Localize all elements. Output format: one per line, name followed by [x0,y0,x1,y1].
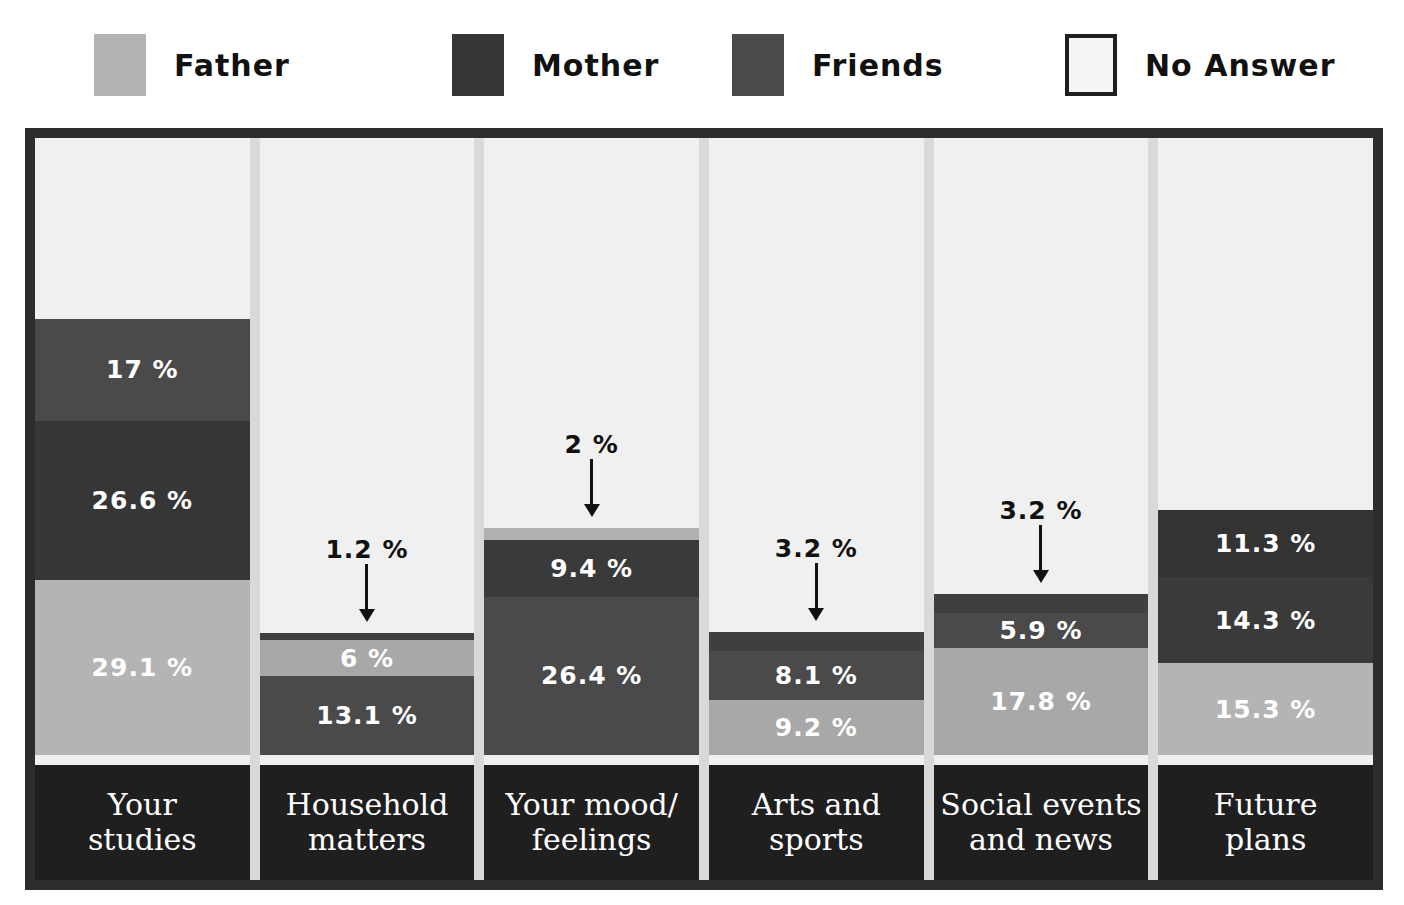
chart-legend: FatherMotherFriendsNo Answer [0,0,1404,128]
bar-segment-father[interactable]: 17.8 % [934,648,1149,755]
segment-value-label: 9.4 % [550,554,633,583]
segment-value-label: 11.3 % [1215,529,1316,558]
legend-swatch-father [94,34,146,96]
bar-segment-friends[interactable] [934,594,1149,613]
category-label-line: Household [286,788,449,823]
bar-segment-father[interactable]: 9.2 % [709,700,924,755]
column-gap [474,138,484,880]
category-label: Yourstudies [88,788,197,858]
bar-segment-father[interactable] [484,528,699,540]
column-gap [924,138,934,880]
category-label-line: sports [752,823,881,858]
segment-value-label: 17.8 % [990,687,1091,716]
bar-column[interactable]: 9.2 %8.1 %3.2 %Arts andsports [709,138,924,880]
callout-value-label: 3.2 % [775,534,858,563]
bar-segment-mother[interactable]: 26.6 % [35,421,250,581]
category-label-line: Social events [940,788,1141,823]
legend-swatch-friends [732,34,784,96]
callout-arrow-icon [584,459,600,517]
segment-value-label: 17 % [106,355,179,384]
segment-value-label: 9.2 % [775,713,858,742]
bar-segment-father[interactable]: 29.1 % [35,580,250,755]
segment-value-label: 29.1 % [92,653,193,682]
bar-segment-father[interactable]: 6 % [260,640,475,676]
segment-value-label: 15.3 % [1215,695,1316,724]
chart-frame: 29.1 %26.6 %17 %Yourstudies13.1 %6 %1.2 … [25,128,1383,890]
callout-arrow-icon [359,564,375,622]
bar-segment-father[interactable]: 15.3 % [1158,663,1373,755]
legend-item-father[interactable]: Father [94,34,290,96]
value-callout: 3.2 % [709,534,924,621]
bar-column[interactable]: 17.8 %5.9 %3.2 %Social eventsand news [934,138,1149,880]
category-label: Futureplans [1214,788,1318,858]
bar-segment-mother[interactable]: 8.1 % [709,651,924,700]
category-label-band: Futureplans [1158,765,1373,880]
value-callout: 3.2 % [934,496,1149,583]
legend-label: Friends [812,48,944,83]
legend-label: No Answer [1145,48,1335,83]
segment-value-label: 14.3 % [1215,606,1316,635]
category-label-line: Your [88,788,197,823]
callout-value-label: 1.2 % [325,535,408,564]
category-label: Your mood/feelings [505,788,677,858]
segment-value-label: 5.9 % [999,616,1082,645]
bar-segment-mother[interactable]: 14.3 % [1158,577,1373,663]
column-gap [699,138,709,880]
category-label-line: Future [1214,788,1318,823]
bar-column[interactable]: 15.3 %14.3 %11.3 %Futureplans [1158,138,1373,880]
category-label-line: Your mood/ [505,788,677,823]
category-label-band: Householdmatters [260,765,475,880]
bar-segment-friends[interactable]: 11.3 % [1158,510,1373,578]
column-gap [1148,138,1158,880]
bar-segment-friends[interactable] [260,633,475,640]
category-label-band: Yourstudies [35,765,250,880]
bar-segment-mother[interactable]: 26.4 % [484,597,699,755]
legend-item-no-answer[interactable]: No Answer [1065,34,1335,96]
bar-column[interactable]: 26.4 %9.4 %2 %Your mood/feelings [484,138,699,880]
category-label-line: Arts and [752,788,881,823]
category-label-line: matters [286,823,449,858]
category-label-line: plans [1214,823,1318,858]
segment-value-label: 26.6 % [92,486,193,515]
bar-segment-friends[interactable]: 9.4 % [484,540,699,596]
category-label: Social eventsand news [940,788,1141,858]
bar-column[interactable]: 29.1 %26.6 %17 %Yourstudies [35,138,250,880]
bar-segment-friends[interactable] [709,632,924,651]
category-label: Householdmatters [286,788,449,858]
plot-area: 29.1 %26.6 %17 %Yourstudies13.1 %6 %1.2 … [35,138,1373,880]
segment-value-label: 13.1 % [316,701,417,730]
legend-item-friends[interactable]: Friends [732,34,944,96]
column-gap [250,138,260,880]
segment-value-label: 6 % [340,644,394,673]
callout-value-label: 2 % [565,430,619,459]
category-label-band: Your mood/feelings [484,765,699,880]
legend-swatch-mother [452,34,504,96]
bar-column[interactable]: 13.1 %6 %1.2 %Householdmatters [260,138,475,880]
value-callout: 2 % [484,430,699,517]
callout-arrow-icon [808,563,824,621]
legend-swatch-no-answer [1065,34,1117,96]
category-label-line: and news [940,823,1141,858]
value-callout: 1.2 % [260,535,475,622]
callout-arrow-icon [1033,525,1049,583]
category-label-line: feelings [505,823,677,858]
bar-segment-friends[interactable]: 17 % [35,319,250,421]
category-label: Arts andsports [752,788,881,858]
category-label-band: Social eventsand news [934,765,1149,880]
chart-page: FatherMotherFriendsNo Answer 29.1 %26.6 … [0,0,1404,905]
segment-value-label: 26.4 % [541,661,642,690]
category-label-band: Arts andsports [709,765,924,880]
segment-value-label: 8.1 % [775,661,858,690]
legend-label: Father [174,48,290,83]
bar-segment-mother[interactable]: 13.1 % [260,676,475,755]
callout-value-label: 3.2 % [999,496,1082,525]
category-label-line: studies [88,823,197,858]
legend-label: Mother [532,48,659,83]
legend-item-mother[interactable]: Mother [452,34,659,96]
bar-segment-mother[interactable]: 5.9 % [934,613,1149,648]
